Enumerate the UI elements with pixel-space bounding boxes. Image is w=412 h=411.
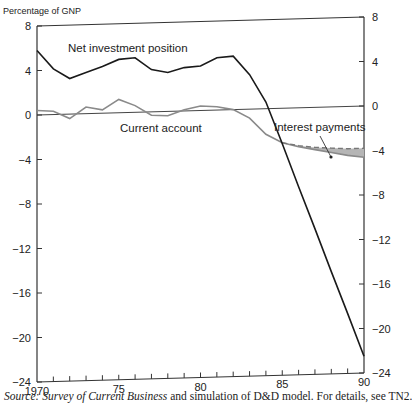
current-account-label: Current account: [120, 122, 203, 134]
net-investment-position-label: Net investment position: [68, 42, 188, 54]
source-suffix: and simulation of D&D model. For details…: [167, 390, 412, 402]
axis-ticks: 884400−4−4−8−8−12−12−16−16−20−20−24−2419…: [12, 11, 390, 397]
y-tick-label-right: 0: [372, 100, 378, 112]
y-tick-label-left: −8: [18, 198, 31, 210]
y-tick-label-right: 4: [372, 56, 378, 68]
top-border: [37, 17, 364, 26]
source-publication: Survey of Current Business: [42, 390, 167, 402]
x-tick-label: 85: [276, 378, 288, 390]
chart-labels: Net investment positionCurrent accountIn…: [68, 42, 366, 159]
y-tick-label-right: −12: [372, 234, 391, 246]
y-tick-label-left: 8: [25, 20, 31, 32]
y-tick-label-left: 4: [25, 65, 31, 77]
interest-payments-label: Interest payments: [274, 121, 366, 133]
y-tick-label-right: −24: [372, 367, 391, 379]
y-tick-label-right: −8: [372, 189, 385, 201]
net-investment-position-line: [37, 51, 364, 357]
y-tick-label-left: −4: [18, 154, 31, 166]
y-tick-label-right: 8: [372, 11, 378, 23]
y-tick-label-left: −16: [12, 287, 31, 299]
source-prefix: Source:: [4, 390, 42, 402]
series-lines: [37, 51, 364, 357]
y-tick-label-left: −12: [12, 243, 31, 255]
y-tick-label-right: −4: [372, 145, 385, 157]
interest-payments-pointer: [320, 136, 331, 157]
y-tick-label-right: −20: [372, 323, 391, 335]
y-tick-label-left: 0: [25, 109, 31, 121]
x-tick-label: 90: [358, 376, 370, 388]
y-tick-label-right: −16: [372, 278, 391, 290]
source-note: Source: Survey of Current Business and s…: [4, 390, 394, 402]
y-axis-unit-label: Percentage of GNP: [3, 6, 81, 16]
y-tick-label-left: −20: [12, 332, 31, 344]
interest-payments-pointer-dot: [329, 155, 332, 158]
